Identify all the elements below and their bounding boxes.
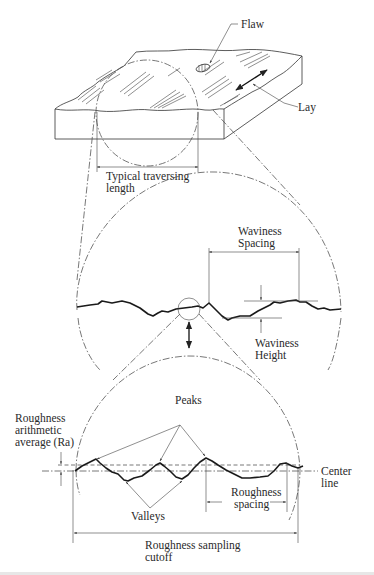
flaw-label: Flaw <box>241 18 265 30</box>
sampling-cutoff-label-2: cutoff <box>145 551 172 563</box>
surface-lay-hatching <box>78 52 270 108</box>
workpiece-block: Flaw Lay Typical traversing length <box>55 18 316 195</box>
peaks-label: Peaks <box>175 394 202 406</box>
center-line-label-2: line <box>321 477 338 489</box>
roughness-spacing-label-2: spacing <box>234 498 269 511</box>
lay-direction-arrow <box>236 70 267 90</box>
lay-label: Lay <box>298 101 316 114</box>
surface-texture-diagram: Flaw Lay Typical traversing length Wavin… <box>0 0 374 575</box>
waviness-spacing-label: Waviness <box>238 225 282 237</box>
ra-label-2: arithmetic <box>15 424 62 436</box>
waviness-height-label-2: Height <box>255 349 287 362</box>
waviness-height-label: Waviness <box>255 337 299 349</box>
valleys-label: Valleys <box>131 510 165 523</box>
roughness-view: Peaks Valleys Roughness arithmetic avera… <box>15 356 352 563</box>
waviness-spacing-label-2: Spacing <box>238 237 275 250</box>
traversing-circle <box>96 60 198 166</box>
ra-label-3: average (Ra) <box>15 436 74 449</box>
waviness-view: Waviness Spacing Waviness Height <box>77 172 341 370</box>
traversing-length-label-2: length <box>106 182 135 195</box>
center-line-label: Center <box>321 465 352 477</box>
roughness-profile <box>75 458 303 481</box>
